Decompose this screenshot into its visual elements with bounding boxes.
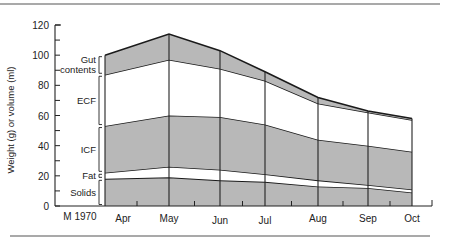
- y-tick-label: 80: [38, 80, 50, 91]
- x-tick-label: Oct: [404, 213, 420, 224]
- x-start-label: M 1970: [63, 211, 97, 222]
- y-tick-label: 0: [43, 201, 49, 212]
- layer-label: ICF: [81, 144, 97, 155]
- layer-labels: GutcontentsECFICFFatSolids: [60, 54, 102, 204]
- layer-label: ECF: [77, 95, 96, 106]
- y-axis-title: Weight (g) or volume (ml): [5, 67, 16, 174]
- layer-label: Solids: [70, 187, 96, 198]
- y-tick-label: 120: [32, 20, 49, 31]
- x-tick-label: Apr: [115, 213, 131, 224]
- y-tick-label: 60: [38, 111, 50, 122]
- layer-label: contents: [60, 64, 96, 75]
- layer-label: Fat: [82, 170, 96, 181]
- stacked-layers: [105, 34, 412, 206]
- body-composition-chart: 020406080100120 M 1970AprMayJunJulAugSep…: [0, 0, 453, 241]
- x-tick-label: Jul: [259, 215, 272, 226]
- y-tick-label: 100: [32, 50, 49, 61]
- y-tick-label: 40: [38, 141, 50, 152]
- x-tick-label: Jun: [212, 215, 228, 226]
- x-tick-label: May: [160, 213, 179, 224]
- x-tick-label: Aug: [309, 213, 327, 224]
- x-tick-label: Sep: [359, 213, 377, 224]
- y-axis: 020406080100120: [32, 20, 61, 212]
- y-tick-label: 20: [38, 171, 50, 182]
